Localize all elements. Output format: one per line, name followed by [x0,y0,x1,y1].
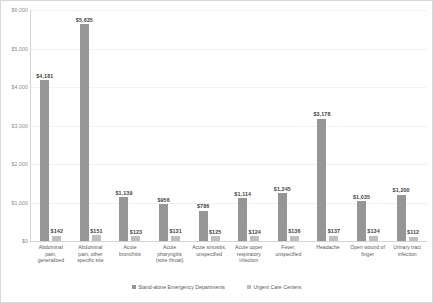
bar-value-label: $125 [209,229,221,235]
bar[interactable] [211,236,220,241]
bar-value-label: $1,035 [353,194,370,200]
bar-group: $4,181$142 [31,10,71,241]
category-label: Abdominalpain,generalized [31,244,71,280]
bar-value-label: $137 [328,228,340,234]
legend-item[interactable]: Stand-alone Emergency Departments [132,284,225,290]
bar-chart: $0$1,000$2,000$3,000$4,000$5,000$6,000 $… [0,0,433,303]
chart-legend: Stand-alone Emergency DepartmentsUrgent … [1,284,432,290]
bar[interactable] [119,197,128,241]
bar-secondary[interactable]: $131 [171,10,180,241]
bar-group: $1,245$136 [269,10,309,241]
bar[interactable] [290,236,299,241]
bar-secondary[interactable]: $125 [211,10,220,241]
bar-group: $1,114$124 [229,10,269,241]
legend-label: Stand-alone Emergency Departments [138,284,225,290]
bar-secondary[interactable]: $112 [409,10,418,241]
bar[interactable] [369,236,378,241]
bar-value-label: $136 [288,228,300,234]
bar-primary[interactable]: $1,035 [357,10,366,241]
y-axis-tick-label: $0 [22,238,28,244]
bar-primary[interactable]: $3,178 [317,10,326,241]
bar-value-label: $123 [130,229,142,235]
bar-primary[interactable]: $1,114 [238,10,247,241]
bar-secondary[interactable]: $136 [290,10,299,241]
bar[interactable] [199,211,208,241]
category-label: Headache [308,244,348,280]
bar[interactable] [250,236,259,241]
y-axis-tick-label: $4,000 [12,84,28,90]
bar-secondary[interactable]: $137 [329,10,338,241]
bar-primary[interactable]: $1,139 [119,10,128,241]
category-label: Acute upperrespiratoryinfection [229,244,269,280]
bar-value-label: $1,139 [115,190,132,196]
bar-value-label: $134 [367,228,379,234]
bar[interactable] [159,204,168,241]
bar-group: $786$125 [189,10,229,241]
bar[interactable] [80,24,89,241]
bar-group: $3,178$137 [308,10,348,241]
bar-groups: $4,181$142$5,635$151$1,139$123$956$131$7… [31,10,427,241]
bar[interactable] [238,198,247,241]
bar-primary[interactable]: $5,635 [80,10,89,241]
bar[interactable] [317,119,326,241]
bar-primary[interactable]: $786 [199,10,208,241]
bar-value-label: $124 [249,229,261,235]
bar-value-label: $142 [51,228,63,234]
bar-primary[interactable]: $1,200 [397,10,406,241]
bar-group: $1,035$134 [348,10,388,241]
y-axis-tick-label: $3,000 [12,123,28,129]
category-label: Fever,unspecified [269,244,309,280]
bar-secondary[interactable]: $134 [369,10,378,241]
bar-primary[interactable]: $956 [159,10,168,241]
category-label: Open wound offinger [348,244,388,280]
bar-value-label: $151 [90,228,102,234]
bar-value-label: $131 [169,228,181,234]
bar[interactable] [329,236,338,241]
bar-value-label: $956 [157,197,169,203]
x-axis-line [30,241,427,242]
bar-value-label: $1,200 [393,187,410,193]
y-axis-tick-label: $5,000 [12,46,28,52]
bar-secondary[interactable]: $151 [92,10,101,241]
bar-group: $1,139$123 [110,10,150,241]
bar-secondary[interactable]: $142 [52,10,61,241]
category-label: Urinary tractinfection [387,244,427,280]
y-axis: $0$1,000$2,000$3,000$4,000$5,000$6,000 [1,10,30,241]
category-label: Acutepharyngitis(sore throat) [150,244,190,280]
y-axis-tick-label: $6,000 [12,7,28,13]
bar-secondary[interactable]: $124 [250,10,259,241]
bar[interactable] [397,195,406,241]
category-label: Acutebronchitis [110,244,150,280]
bar[interactable] [171,236,180,241]
bar-value-label: $1,114 [234,191,251,197]
category-label: Acute sinusitis,unspecified [189,244,229,280]
bar-group: $1,200$112 [387,10,427,241]
bar-value-label: $1,245 [274,186,291,192]
bar[interactable] [357,201,366,241]
bar-group: $956$131 [150,10,190,241]
bar-secondary[interactable]: $123 [131,10,140,241]
bar[interactable] [131,236,140,241]
bar-value-label: $112 [407,229,419,235]
legend-swatch-icon [132,285,136,289]
bar[interactable] [52,236,61,241]
category-label: Abdominalpain, otherspecific site [71,244,111,280]
bar[interactable] [409,237,418,241]
bar[interactable] [92,235,101,241]
y-axis-tick-label: $1,000 [12,200,28,206]
legend-label: Urgent Care Centers [253,284,301,290]
bar-value-label: $786 [197,203,209,209]
bar-value-label: $4,181 [36,73,53,79]
legend-item[interactable]: Urgent Care Centers [247,284,301,290]
bar[interactable] [278,193,287,241]
bar-value-label: $3,178 [313,111,330,117]
bar-primary[interactable]: $1,245 [278,10,287,241]
category-axis: Abdominalpain,generalizedAbdominalpain, … [31,244,427,280]
bar-primary[interactable]: $4,181 [40,10,49,241]
legend-swatch-icon [247,285,251,289]
bar-group: $5,635$151 [71,10,111,241]
bar-value-label: $5,635 [76,17,93,23]
y-axis-tick-label: $2,000 [12,161,28,167]
bar[interactable] [40,80,49,241]
